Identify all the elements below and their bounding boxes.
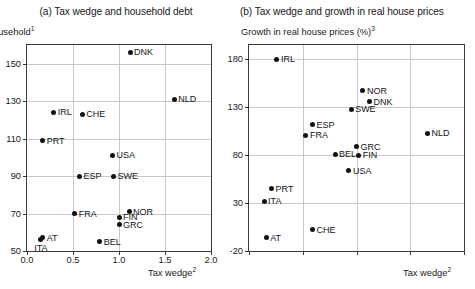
y-axis-tick-label: 30 [233,199,243,208]
data-point-label: USA [117,151,136,160]
data-point [349,107,354,112]
data-point [80,112,85,117]
data-point [360,88,365,93]
data-point-label: BEL [339,150,356,159]
data-point-label: CHE [86,110,105,119]
data-point-label: ESP [316,120,334,129]
gridline-vertical [303,45,304,251]
x-axis-tick-label: 1.0 [113,256,126,265]
data-point-label: SWE [117,172,138,181]
data-point-label: AT [47,233,58,242]
data-point-label: NLD [178,95,196,104]
chart-panel-b: (b) Tax wedge and growth in real house p… [232,0,475,289]
gridline-vertical [119,45,120,251]
data-point [97,239,102,244]
x-axis-tick [249,251,250,255]
panel-b-title: (b) Tax wedge and growth in real house p… [240,6,444,18]
data-point-label: DNK [134,48,153,57]
gridline-vertical [73,45,74,251]
x-axis-tick [410,251,411,255]
x-axis-tick [357,251,358,255]
panel-a-x-axis-title: Tax wedge2 [148,268,196,279]
data-point [117,222,122,227]
data-point-label: ITA [268,197,281,206]
y-axis-tick-label: 80 [233,151,243,160]
data-point-label: NOR [367,86,387,95]
y-axis-tick [23,64,27,65]
data-point-label: IRL [58,108,72,117]
y-axis-footnote-marker: 3 [371,25,375,32]
data-point [72,211,77,216]
y-axis-tick [245,203,249,204]
x-axis-footnote-marker: 2 [447,266,451,273]
data-point [310,227,315,232]
panel-b-x-axis-title: Tax wedge2 [403,268,451,279]
y-axis-tick-label: 50 [11,247,21,256]
x-axis-footnote-marker: 2 [192,266,196,273]
y-axis-tick [23,139,27,140]
x-axis-tick [464,251,465,255]
y-axis-footnote-marker: 1 [31,25,35,32]
y-axis-tick-label: 150 [5,59,21,68]
panel-a-plot-area: 1501301109070500.00.51.01.52.0DNKNLDIRLC… [26,44,212,252]
data-point [333,152,338,157]
y-axis-tick-label: 110 [6,134,21,143]
data-point-label: PRT [47,136,65,145]
data-point-label: NLD [431,129,449,138]
chart-panel-a: (a) Tax wedge and household debt ousehol… [0,0,232,289]
gridline-vertical [165,45,166,251]
y-axis-tick [23,176,27,177]
data-point-label: FRA [79,209,97,218]
data-point-label: ITA [34,244,47,253]
data-point-label: GRC [123,220,143,229]
data-point [303,133,308,138]
data-point [172,97,177,102]
data-point-label: FRA [310,131,328,140]
y-axis-tick-label: 70 [11,209,21,218]
y-axis-tick [245,155,249,156]
data-point [264,235,269,240]
data-point-label: AT [270,233,281,242]
data-point-label: ESP [83,172,101,181]
data-point [356,153,361,158]
panel-a-y-axis-title: ousehold1 [0,27,34,38]
data-point-label: FIN [363,151,378,160]
data-point-label: IRL [281,55,295,64]
data-point [110,153,115,158]
data-point-label: PRT [276,184,294,193]
data-point [310,122,315,127]
data-point-label: USA [353,166,372,175]
data-point-label: CHE [316,225,335,234]
y-axis-tick-label: 90 [11,172,21,181]
y-axis-tick [245,107,249,108]
data-point [262,199,267,204]
data-point [128,50,133,55]
y-axis-tick-label: 130 [227,103,243,112]
data-point [346,168,351,173]
data-point [38,237,43,242]
panel-b-y-axis-title: Growth in real house prices (%)3 [241,27,375,38]
panel-b-plot-area: 1801308030-20IRLNORDNKSWEESPFRANLDGRCBEL… [248,44,465,252]
y-axis-tick-label: 180 [227,55,243,64]
data-point [425,131,430,136]
data-point [269,186,274,191]
y-axis-tick [245,59,249,60]
panel-a-title: (a) Tax wedge and household debt [0,6,232,18]
data-point-label: SWE [355,105,376,114]
x-axis-tick-label: 1.5 [159,256,172,265]
data-point-label: BEL [104,237,121,246]
y-axis-tick-label: 130 [5,97,21,106]
data-point [77,174,82,179]
data-point [40,138,45,143]
y-axis-tick [23,101,27,102]
data-point [274,57,279,62]
gridline-vertical [410,45,411,251]
x-axis-tick [303,251,304,255]
data-point [51,110,56,115]
data-point-label: DNK [373,97,392,106]
data-point [117,215,122,220]
y-axis-tick [23,214,27,215]
x-axis-tick-label: 2.0 [205,256,218,265]
x-axis-tick-label: 0.0 [21,256,34,265]
y-axis-tick-label: -20 [230,247,243,256]
